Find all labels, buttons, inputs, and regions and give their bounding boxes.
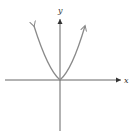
parabola-curve (34, 26, 60, 80)
parabola-curve (60, 26, 85, 80)
y-axis-label: y (57, 6, 63, 15)
parabola-graph: y x (0, 0, 135, 139)
x-axis-label: x (124, 76, 129, 85)
